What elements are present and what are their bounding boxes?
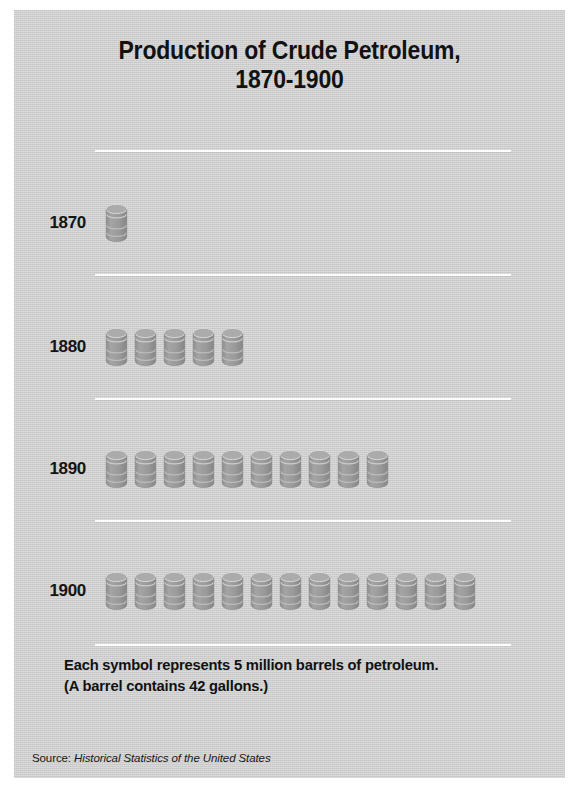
source-title: Historical Statistics of the United Stat… bbox=[74, 752, 271, 764]
footnote-line-2: (A barrel contains 42 gallons.) bbox=[64, 675, 520, 696]
barrel-icon bbox=[278, 449, 303, 489]
row-label-1880: 1880 bbox=[14, 337, 86, 357]
pictograph-row: 1870 bbox=[14, 192, 565, 254]
separator-rule-1 bbox=[95, 150, 511, 152]
row-label-1890: 1890 bbox=[14, 459, 86, 479]
barrel-icon bbox=[104, 449, 129, 489]
barrel-icon bbox=[249, 449, 274, 489]
pictograph-row: 1880 bbox=[14, 316, 565, 378]
footnote: Each symbol represents 5 million barrels… bbox=[64, 654, 520, 696]
barrel-icon bbox=[191, 571, 216, 611]
barrel-icon bbox=[162, 327, 187, 367]
barrel-icon bbox=[162, 571, 187, 611]
pictograph-row: 1900 bbox=[14, 560, 565, 622]
barrel-icon bbox=[423, 571, 448, 611]
symbol-group-1900 bbox=[104, 560, 477, 622]
symbol-group-1870 bbox=[104, 192, 129, 254]
source-prefix: Source: bbox=[32, 752, 71, 764]
row-label-1870: 1870 bbox=[14, 213, 86, 233]
symbol-group-1880 bbox=[104, 316, 245, 378]
row-label-1900: 1900 bbox=[14, 581, 86, 601]
barrel-icon bbox=[220, 327, 245, 367]
barrel-icon bbox=[365, 449, 390, 489]
separator-rule-3 bbox=[95, 398, 511, 400]
barrel-icon bbox=[133, 327, 158, 367]
barrel-icon bbox=[452, 571, 477, 611]
barrel-icon bbox=[104, 327, 129, 367]
barrel-icon bbox=[336, 449, 361, 489]
barrel-icon bbox=[220, 571, 245, 611]
pictograph-row: 1890 bbox=[14, 438, 565, 500]
poster-page: Production of Crude Petroleum, 1870-1900… bbox=[0, 0, 579, 788]
poster-panel: Production of Crude Petroleum, 1870-1900… bbox=[14, 10, 565, 778]
barrel-icon bbox=[307, 571, 332, 611]
barrel-icon bbox=[336, 571, 361, 611]
barrel-icon bbox=[104, 571, 129, 611]
barrel-icon bbox=[394, 571, 419, 611]
separator-rule-4 bbox=[95, 520, 511, 522]
barrel-icon bbox=[104, 203, 129, 243]
barrel-icon bbox=[278, 571, 303, 611]
footnote-line-1: Each symbol represents 5 million barrels… bbox=[64, 654, 520, 675]
barrel-icon bbox=[307, 449, 332, 489]
barrel-icon bbox=[191, 327, 216, 367]
separator-rule-2 bbox=[95, 274, 511, 276]
symbol-group-1890 bbox=[104, 438, 390, 500]
barrel-icon bbox=[220, 449, 245, 489]
footnote-divider bbox=[95, 644, 511, 646]
barrel-icon bbox=[133, 449, 158, 489]
barrel-icon bbox=[162, 449, 187, 489]
barrel-icon bbox=[191, 449, 216, 489]
source-note: Source: Historical Statistics of the Uni… bbox=[32, 752, 271, 764]
barrel-icon bbox=[249, 571, 274, 611]
barrel-icon bbox=[365, 571, 390, 611]
barrel-icon bbox=[133, 571, 158, 611]
